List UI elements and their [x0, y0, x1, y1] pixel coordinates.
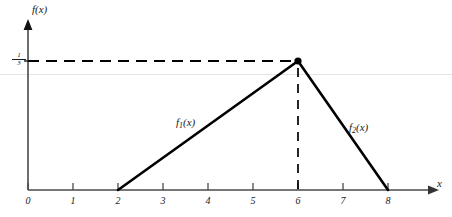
y-axis — [24, 19, 33, 190]
peak-point-marker — [294, 57, 301, 64]
curve-label-f2: f2(x) — [349, 122, 368, 135]
curve-label-f1-arg: (x) — [183, 116, 195, 128]
x-axis-ticks — [28, 183, 388, 190]
x-tick-label-7: 7 — [335, 196, 351, 206]
x-tick-label-8: 8 — [380, 196, 396, 206]
x-tick-label-3: 3 — [155, 196, 171, 206]
plot-canvas — [0, 0, 452, 217]
x-axis-label: x — [437, 178, 442, 189]
x-tick-label-0: 0 — [20, 196, 36, 206]
x-tick-label-6: 6 — [290, 196, 306, 206]
curve-label-f2-arg: (x) — [356, 121, 368, 133]
curve-segment-f1 — [118, 61, 298, 190]
y-tick-label-one-third: 1 3 — [12, 52, 26, 68]
x-tick-label-5: 5 — [245, 196, 261, 206]
curve-label-f1: f1(x) — [176, 117, 195, 130]
y-axis-label: f(x) — [32, 4, 47, 15]
x-tick-label-1: 1 — [65, 196, 81, 206]
curve-segment-f2 — [298, 61, 388, 190]
triangular-density-figure: f(x) x f1(x) f2(x) 1 3 0 1 2 3 4 5 6 7 8 — [0, 0, 452, 217]
fraction-denominator: 3 — [12, 60, 26, 67]
x-tick-label-4: 4 — [200, 196, 216, 206]
x-axis — [28, 186, 439, 195]
x-tick-label-2: 2 — [110, 196, 126, 206]
